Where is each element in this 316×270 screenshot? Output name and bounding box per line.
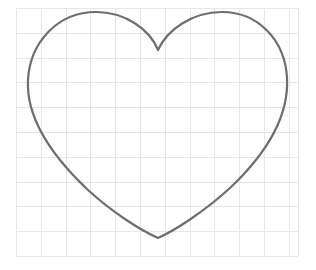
- heart-outline-icon: [28, 12, 287, 238]
- heart-drawing-layer: [0, 0, 316, 270]
- drawing-canvas: [0, 0, 316, 270]
